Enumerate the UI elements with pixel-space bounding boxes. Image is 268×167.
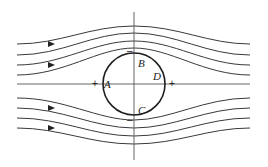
streamline-bottom-2: [17, 108, 250, 128]
flow-diagram: ABCD ++––: [0, 0, 268, 167]
flow-arrow-icon: [48, 125, 55, 131]
point-label-d: D: [152, 70, 161, 82]
streamline-top-4: [17, 48, 250, 75]
point-label-b: B: [138, 57, 145, 69]
point-labels-group: ABCD: [103, 57, 161, 116]
flow-arrow-icon: [48, 41, 55, 47]
pressure-positive-left-sign: +: [92, 78, 98, 89]
flow-arrow-icon: [48, 62, 55, 68]
point-label-c: C: [138, 104, 146, 116]
pressure-negative-top-sign: –: [127, 45, 133, 56]
streamlines-group: [17, 26, 250, 144]
flow-arrow-icon: [48, 105, 55, 111]
pressure-negative-bottom-sign: –: [127, 114, 133, 125]
point-label-a: A: [103, 78, 111, 90]
pressure-positive-right-sign: +: [169, 78, 175, 89]
